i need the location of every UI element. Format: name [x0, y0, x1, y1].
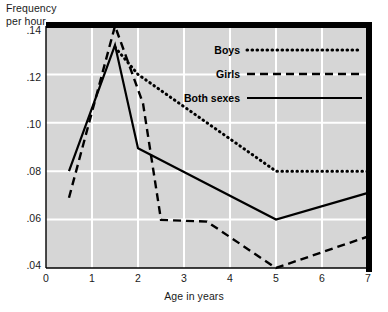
chart-container: Frequency per hour .14 .12 .10 .08 .06 .…	[0, 0, 388, 312]
x-axis-title: Age in years	[0, 290, 388, 302]
legend-label-boys: Boys	[120, 44, 240, 56]
legend-label-both-sexes: Both sexes	[120, 92, 240, 104]
legend-label-girls: Girls	[120, 68, 240, 80]
plot-background	[46, 26, 368, 268]
